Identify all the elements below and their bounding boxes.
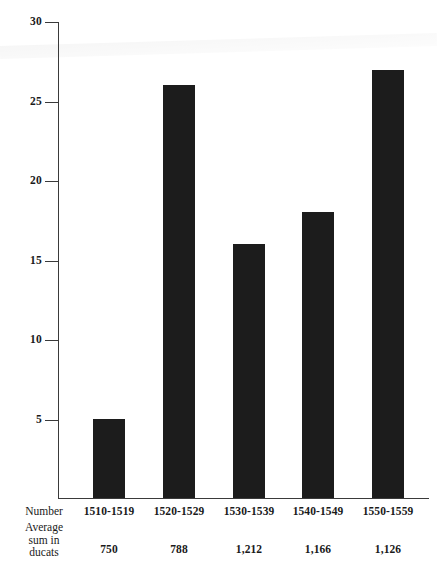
- bar-1550-1559: [372, 70, 404, 498]
- y-tick-label-10: 10: [30, 334, 42, 346]
- bar-1540-1549: [302, 212, 334, 498]
- y-tick-mark-5: [45, 420, 58, 421]
- y-tick-mark-25: [45, 102, 58, 103]
- y-tick-mark-15: [45, 261, 58, 262]
- bar-1520-1529: [163, 85, 195, 498]
- bar-1530-1539: [233, 244, 265, 498]
- y-tick-label-20: 20: [30, 175, 42, 187]
- y-tick-label-25: 25: [30, 96, 42, 108]
- y-tick-mark-10: [45, 340, 58, 341]
- y-tick-label-15: 15: [30, 255, 42, 267]
- average-value-5: 1,126: [345, 543, 431, 555]
- bar-chart: 30 25 20 15 10 5 Number Average sum in d…: [0, 0, 437, 572]
- y-tick-label-30: 30: [30, 16, 42, 28]
- row-header-average-line1: Average: [4, 521, 84, 534]
- y-tick-mark-30: [45, 22, 58, 23]
- bar-1510-1519: [93, 419, 125, 498]
- scan-artifact: [0, 33, 437, 59]
- y-axis-line: [58, 22, 59, 499]
- y-tick-mark-20: [45, 181, 58, 182]
- period-label-5: 1550-1559: [345, 505, 431, 517]
- y-tick-label-5: 5: [36, 414, 42, 426]
- x-axis-line: [58, 498, 429, 499]
